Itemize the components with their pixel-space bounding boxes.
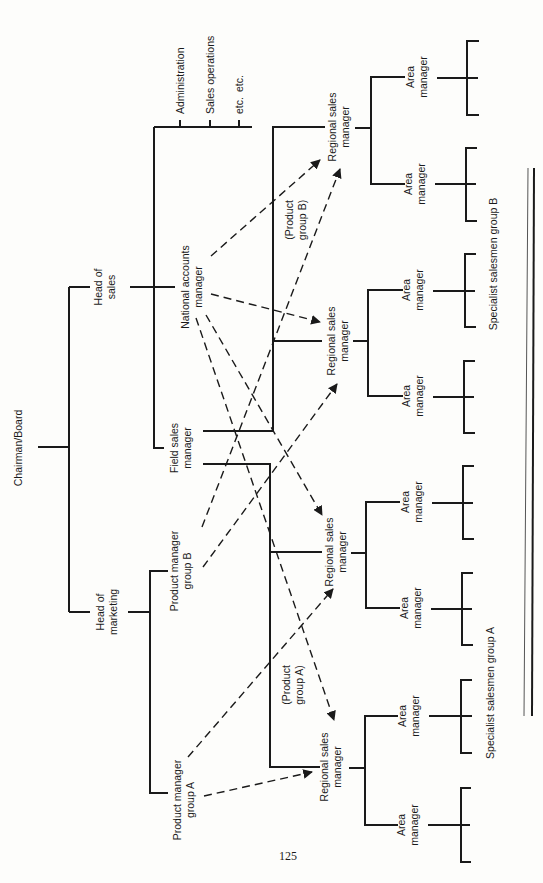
national-accounts-line1: National accounts [179, 245, 191, 328]
product-manager-b-node: Product manager group B [168, 530, 193, 611]
area-manager-7: Area manager [396, 680, 472, 753]
head-of-sales-line1: Head of [92, 269, 104, 306]
product-manager-a-node: Product manager group A [171, 759, 196, 840]
am6-line1: Area [398, 597, 410, 619]
head-of-marketing-node: Head of marketing [94, 589, 119, 635]
rsm1-line1: Regional sales [326, 93, 338, 162]
am4-line1: Area [400, 385, 412, 407]
rsm2-line1: Regional sales [325, 307, 337, 376]
rsm1-bracket [371, 77, 405, 184]
pma-to-rsm4 [204, 772, 312, 796]
rsm3-line1: Regional sales [323, 518, 335, 587]
am8-line2: manager [408, 804, 420, 846]
rsm2-line2: manager [338, 320, 350, 362]
area-manager-6: Area manager [398, 573, 473, 645]
field-sales-to-upper-regions [203, 127, 325, 431]
specialist-group-b-label: Specialist salesmen group B [487, 198, 499, 331]
regional-sales-manager-1: Regional sales manager [326, 93, 351, 162]
product-manager-a-line2: group A [184, 782, 196, 818]
sales-operations-label: Sales operations [204, 36, 216, 114]
etc-label-2: etc. [233, 75, 245, 92]
marketing-trunk [150, 571, 168, 793]
etc-label-1: etc. [233, 97, 245, 114]
head-of-marketing-line2: marketing [107, 589, 119, 635]
am1-line2: manager [417, 56, 429, 98]
product-group-a-annotation-line2: group A) [293, 665, 305, 705]
rsm3-line2: manager [336, 531, 348, 573]
am2-line1: Area [402, 173, 414, 195]
rsm4-line2: manager [331, 746, 343, 788]
head-of-marketing-line1: Head of [94, 594, 106, 631]
am3-line1: Area [400, 279, 412, 301]
dotted-line-relationships [188, 160, 340, 796]
double-rule-outer [532, 168, 534, 716]
nam-to-rsm4 [196, 318, 334, 720]
chairman-board-label: Chairman/Board [12, 410, 24, 487]
nam-to-rsm3 [206, 315, 322, 515]
regional-sales-manager-2: Regional sales manager [325, 307, 350, 376]
head-of-sales-node: Head of sales [92, 269, 117, 306]
rsm2-bracket [368, 290, 403, 396]
area-manager-8: Area manager [395, 788, 471, 862]
head-of-sales-line2: sales [105, 275, 117, 300]
regional-sales-manager-3: Regional sales manager [323, 518, 348, 587]
am1-line1: Area [404, 66, 416, 88]
area-manager-3: Area manager [400, 254, 476, 327]
am7-line2: manager [409, 695, 421, 737]
rsm4-bracket [365, 716, 398, 825]
product-manager-a-line1: Product manager [171, 759, 183, 840]
am5-line2: manager [412, 481, 424, 523]
national-accounts-manager-node: National accounts manager [179, 245, 204, 328]
am8-line1: Area [395, 814, 407, 836]
am7-line1: Area [396, 705, 408, 727]
area-manager-2: Area manager [402, 148, 477, 221]
am4-line2: manager [413, 375, 425, 417]
nam-to-rsm2 [211, 294, 320, 322]
am6-line2: manager [411, 587, 423, 629]
am2-line2: manager [415, 163, 427, 205]
product-group-b-annotation-line2: group B) [296, 200, 308, 240]
rsm3-bracket [366, 502, 400, 608]
national-accounts-line2: manager [192, 266, 204, 308]
rsm1-line2: manager [339, 106, 351, 148]
chairman-board-node: Chairman/Board [12, 410, 24, 487]
am3-line2: manager [413, 269, 425, 311]
pma-to-rsm3 [188, 589, 333, 757]
administration-label: Administration [174, 47, 186, 114]
area-manager-1: Area manager [404, 41, 479, 115]
product-group-b-annotation-line1: (Product [283, 200, 295, 240]
field-sales-manager-node: Field sales manager [168, 423, 193, 473]
org-chart: Chairman/Board Head of sales Administrat… [0, 0, 543, 883]
field-sales-line2: manager [181, 427, 193, 469]
page-number: 125 [279, 849, 297, 863]
regional-sales-manager-4: Regional sales manager [318, 733, 343, 802]
product-manager-b-line2: group B [181, 553, 193, 590]
field-sales-line1: Field sales [168, 423, 180, 473]
rsm4-line1: Regional sales [318, 733, 330, 802]
double-rule-inner [524, 168, 528, 716]
am5-line1: Area [399, 491, 411, 513]
area-manager-5: Area manager [399, 466, 474, 539]
specialist-group-a-label: Specialist salesmen group A [484, 627, 496, 759]
area-managers: Area manager Area manager Area manager A… [395, 41, 479, 862]
product-manager-b-line1: Product manager [168, 530, 180, 611]
product-group-a-annotation-line1: (Product [280, 665, 292, 705]
area-manager-4: Area manager [400, 361, 475, 433]
